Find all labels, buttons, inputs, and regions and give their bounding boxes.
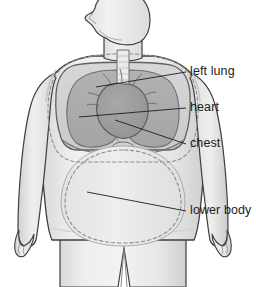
label-chest: chest [190,136,221,150]
lower-body-region [61,146,185,246]
anatomy-illustration: left lung heart chest lower body [0,0,256,287]
lower-body-fill [61,146,185,246]
label-lower-body: lower body [190,203,252,217]
anatomy-diagram: left lung heart chest lower body [0,0,256,287]
label-left-lung: left lung [190,64,235,78]
label-heart: heart [190,100,219,114]
